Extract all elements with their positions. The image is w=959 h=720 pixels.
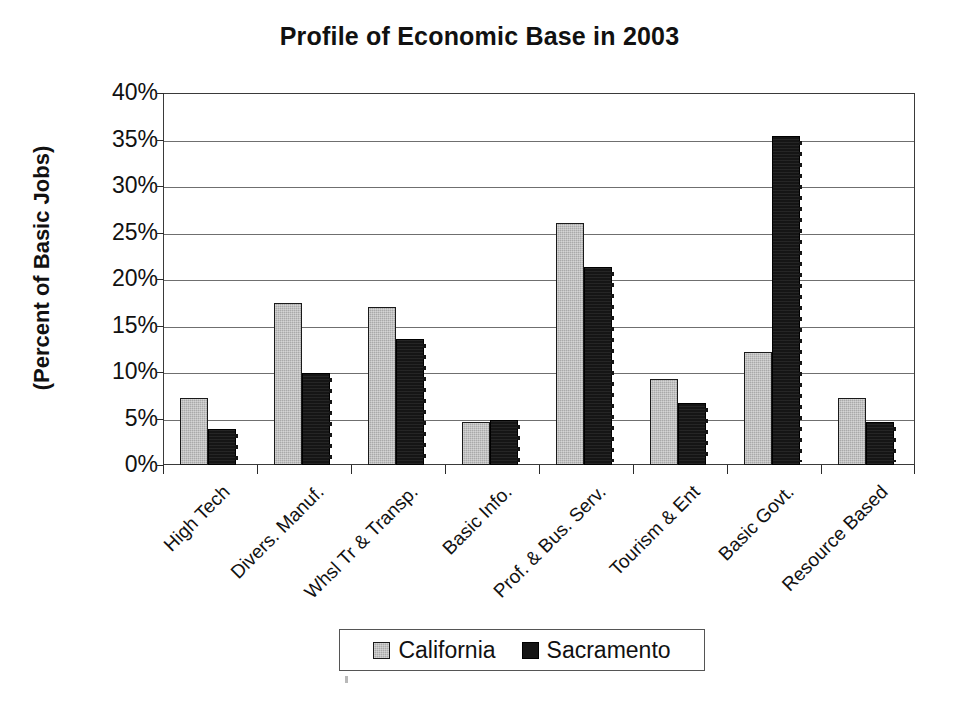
- y-axis-tick-label: 35%: [96, 128, 158, 151]
- y-axis-tick-label: 30%: [96, 174, 158, 197]
- y-axis-tick-label: 15%: [96, 314, 158, 337]
- scan-artifact-speck: [345, 676, 348, 683]
- y-axis-tick-mark: [156, 465, 164, 466]
- y-axis-tick-mark: [156, 372, 164, 373]
- legend-label: California: [398, 639, 495, 662]
- legend-entry-california: California: [373, 639, 495, 662]
- gridline: [164, 141, 914, 142]
- y-axis-tick-label: 20%: [96, 267, 158, 290]
- y-axis-tick-label: 5%: [96, 407, 158, 430]
- black-swatch-icon: [522, 642, 539, 659]
- y-axis-tick-label: 25%: [96, 221, 158, 244]
- legend-label: Sacramento: [547, 639, 671, 662]
- gridline: [164, 187, 914, 188]
- y-axis-tick-mark: [156, 140, 164, 141]
- y-axis-title: (Percent of Basic Jobs): [29, 108, 55, 428]
- gridline: [164, 373, 914, 374]
- y-axis-tick-mark: [156, 186, 164, 187]
- x-axis-category-label: Tourism & Ent: [606, 481, 705, 580]
- y-axis-tick-labels: 40%35%30%25%20%15%10%5%0%: [90, 0, 158, 720]
- gridline: [164, 420, 914, 421]
- economic-base-bar-chart: Profile of Economic Base in 2003 (Percen…: [0, 0, 959, 720]
- chart-legend: CaliforniaSacramento: [339, 629, 705, 671]
- x-axis-category-label: High Tech: [160, 481, 235, 556]
- y-axis-tick-mark: [156, 279, 164, 280]
- y-axis-tick-label: 10%: [96, 360, 158, 383]
- y-axis-tick-mark: [156, 233, 164, 234]
- x-axis-category-labels: High TechDivers. Manuf.Whsl Tr & Transp.…: [163, 465, 915, 615]
- gray-swatch-icon: [373, 642, 390, 659]
- x-axis-category-label: Basic Info.: [439, 481, 517, 559]
- x-axis-category-label: Divers. Manuf.: [227, 481, 329, 583]
- x-axis-category-label: Basic Govt.: [715, 481, 799, 565]
- gridline: [164, 327, 914, 328]
- gridline: [164, 280, 914, 281]
- gridline: [164, 234, 914, 235]
- y-axis-tick-mark: [156, 326, 164, 327]
- y-axis-tick-label: 0%: [96, 453, 158, 476]
- y-axis-tick-mark: [156, 419, 164, 420]
- y-axis-tick-label: 40%: [96, 81, 158, 104]
- plot-area: [163, 93, 915, 465]
- y-axis-tick-mark: [156, 93, 164, 94]
- legend-entry-sacramento: Sacramento: [522, 639, 671, 662]
